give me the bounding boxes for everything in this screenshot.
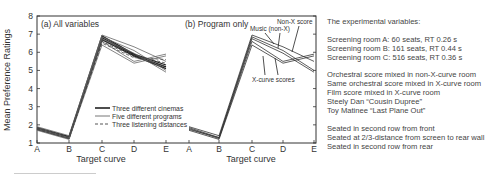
svg-text:D: D — [131, 144, 137, 154]
legend: Three different cinemas Five different p… — [95, 105, 188, 129]
svg-text:A: A — [34, 144, 40, 154]
annotation-xcurve-scores: X-curve scores — [252, 76, 295, 83]
svg-text:7: 7 — [28, 29, 33, 39]
x-axis-label-a: Target curve — [76, 154, 126, 164]
svg-text:4: 4 — [28, 84, 33, 94]
legend-label-programs: Five different programs — [112, 113, 182, 121]
variables-heading: The experimental variables: — [327, 18, 484, 27]
svg-text:8: 8 — [28, 11, 33, 21]
room-c: Screening room C: 516 seats, RT 0.36 s — [327, 54, 484, 63]
arrow-xcurve-1-icon — [263, 56, 265, 75]
arrow-nonx-icon — [292, 26, 299, 52]
svg-text:C: C — [249, 144, 255, 154]
svg-text:E: E — [311, 144, 317, 154]
svg-text:D: D — [280, 144, 286, 154]
svg-text:B: B — [66, 144, 72, 154]
seating-3: Seated in second row from rear — [327, 143, 484, 152]
svg-text:6: 6 — [28, 47, 33, 57]
panel-b-title: (b) Program only — [185, 19, 249, 29]
y-axis-label: Mean Preference Ratings — [2, 28, 12, 131]
annotation-nonx-score: Non-X score — [277, 18, 313, 25]
svg-text:E: E — [163, 144, 169, 154]
svg-text:A: A — [186, 144, 192, 154]
svg-text:2: 2 — [28, 120, 33, 130]
panel-a-title: (a) All variables — [41, 19, 99, 29]
svg-text:3: 3 — [28, 102, 33, 112]
svg-text:B: B — [216, 144, 222, 154]
preference-chart: 12345678 ABCDEABCDE Mean Preference Rati… — [0, 0, 320, 176]
legend-label-distances: Three listening distances — [112, 121, 188, 129]
arrow-music-1-icon — [265, 33, 274, 44]
svg-text:1: 1 — [28, 138, 33, 148]
experimental-variables: The experimental variables: Screening ro… — [327, 18, 484, 152]
annotation-music-nonx: Music (non-X) — [250, 25, 290, 33]
divider — [14, 173, 96, 174]
svg-text:5: 5 — [28, 65, 33, 75]
x-axis-label-b: Target curve — [226, 154, 276, 164]
arrow-xcurve-2-icon — [275, 58, 278, 75]
panel-b-annotations: Non-X score Music (non-X) X-curve scores — [250, 18, 313, 83]
panel-b-lines — [189, 35, 314, 139]
legend-label-cinemas: Three different cinemas — [112, 105, 184, 112]
svg-text:C: C — [99, 144, 105, 154]
x-axis-ticks: ABCDEABCDE — [34, 140, 317, 154]
program-5: Toy Matinee “Last Plane Out” — [327, 107, 484, 116]
